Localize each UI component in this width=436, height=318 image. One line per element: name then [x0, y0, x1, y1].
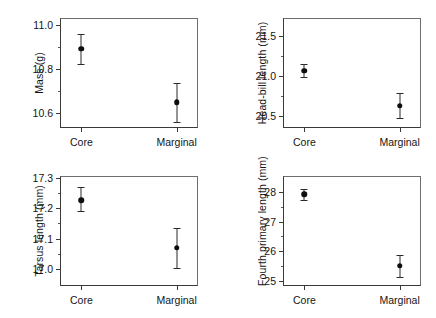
y-axis-tick — [279, 281, 283, 282]
y-axis-minor-tick — [281, 207, 284, 208]
mean-marker — [302, 192, 308, 198]
y-axis-minor-tick — [281, 266, 284, 267]
y-axis-tick — [279, 222, 283, 223]
error-bar-cap-lower — [301, 200, 308, 201]
y-axis-title: Fourth primary length (mm) — [256, 176, 268, 286]
mean-marker — [397, 263, 403, 269]
figure-panel-grid: 10.610.811.0Mass (g)CoreMarginal20.521.0… — [0, 0, 436, 318]
data-point-core — [294, 189, 314, 200]
y-axis-minor-tick — [281, 236, 284, 237]
error-bar-cap-lower — [396, 277, 403, 278]
y-axis-tick — [279, 192, 283, 193]
error-bar-cap-upper — [301, 189, 308, 190]
x-axis-tick — [400, 286, 401, 290]
y-axis-tick — [279, 251, 283, 252]
error-bar-cap-upper — [396, 255, 403, 256]
data-point-marginal — [390, 255, 410, 277]
x-axis-tick — [304, 286, 305, 290]
chart-panel-d: 25262728Fourth primary length (mm)CoreMa… — [0, 0, 436, 318]
x-axis-tick-label-marginal: Marginal — [379, 294, 419, 306]
figure-caption-partial — [0, 306, 436, 318]
x-axis-tick-label-core: Core — [293, 294, 316, 306]
